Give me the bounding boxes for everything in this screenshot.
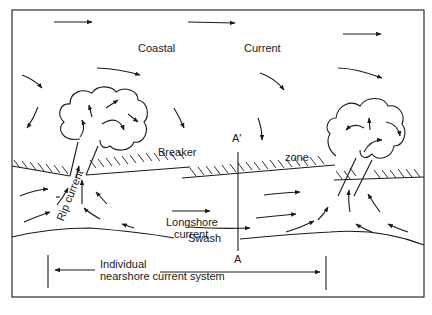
swash-line-right xyxy=(240,231,424,245)
label-zone: zone xyxy=(285,151,309,163)
label-longshore-1: Longshore xyxy=(166,216,218,228)
nearshore-current-diagram xyxy=(0,0,432,315)
label-current: Current xyxy=(244,42,281,54)
label-system-2: nearshore current system xyxy=(100,270,225,282)
right-rip-head-arrows xyxy=(346,118,400,152)
label-system-1: Individual xyxy=(100,258,146,270)
label-section-top: A′ xyxy=(232,132,241,144)
diagram-frame xyxy=(12,10,424,297)
label-breaker: Breaker xyxy=(158,146,197,158)
left-rip-head-arrows xyxy=(80,100,138,137)
label-swash: Swash xyxy=(188,232,221,244)
swash-line xyxy=(12,228,174,238)
label-coastal: Coastal xyxy=(138,42,175,54)
label-section-bottom: A xyxy=(234,253,241,265)
right-rip-channel xyxy=(338,158,372,196)
